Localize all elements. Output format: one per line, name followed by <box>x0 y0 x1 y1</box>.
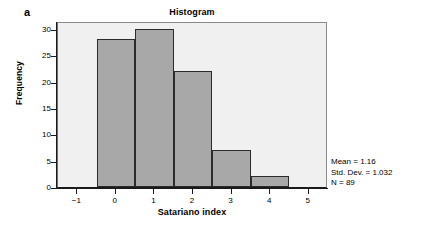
plot-area <box>57 22 327 188</box>
y-tick-label: 20 <box>21 79 51 87</box>
bar-series <box>58 23 326 187</box>
y-tick-mark <box>51 56 56 57</box>
x-tick-mark <box>269 189 270 194</box>
y-tick-label: 0 <box>21 184 51 192</box>
y-axis-line <box>56 22 57 189</box>
stats-n: N = 89 <box>331 178 392 189</box>
histogram-bar <box>174 71 213 187</box>
y-tick-mark <box>51 162 56 163</box>
x-tick-mark <box>231 189 232 194</box>
stats-std-dev: Std. Dev. = 1.032 <box>331 168 392 179</box>
y-tick-label: 15 <box>21 105 51 113</box>
y-tick-label: 5 <box>21 158 51 166</box>
y-tick-label: 10 <box>21 131 51 139</box>
y-tick-mark <box>51 83 56 84</box>
y-tick-mark <box>51 188 56 189</box>
y-tick-mark <box>51 30 56 31</box>
y-axis-title: Frequency <box>14 28 24 138</box>
chart-title: Histogram <box>57 7 327 18</box>
stats-mean: Mean = 1.16 <box>331 157 392 168</box>
y-tick-label: 30 <box>21 26 51 34</box>
y-tick-mark <box>51 109 56 110</box>
panel-label: a <box>24 6 30 18</box>
histogram-bar <box>251 176 290 187</box>
x-tick-label: 5 <box>296 196 320 205</box>
stats-annotation: Mean = 1.16 Std. Dev. = 1.032 N = 89 <box>331 157 392 189</box>
x-tick-mark <box>76 189 77 194</box>
y-tick-label: 25 <box>21 52 51 60</box>
histogram-bar <box>135 29 174 187</box>
x-tick-label: 0 <box>103 196 127 205</box>
histogram-figure: a Histogram 051015202530 −1012345 Freque… <box>0 0 423 226</box>
histogram-bar <box>97 39 136 187</box>
x-tick-label: 3 <box>219 196 243 205</box>
x-tick-mark <box>308 189 309 194</box>
x-tick-mark <box>115 189 116 194</box>
x-tick-label: −1 <box>64 196 88 205</box>
x-tick-mark <box>153 189 154 194</box>
y-tick-mark <box>51 135 56 136</box>
histogram-bar <box>212 150 251 187</box>
x-axis-title: Satariano index <box>57 207 327 218</box>
x-tick-label: 4 <box>257 196 281 205</box>
x-tick-label: 2 <box>180 196 204 205</box>
x-tick-label: 1 <box>141 196 165 205</box>
x-tick-mark <box>192 189 193 194</box>
